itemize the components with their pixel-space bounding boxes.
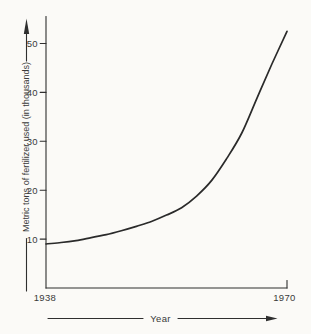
y-tick-label: 10 bbox=[27, 234, 38, 245]
y-tick-label: 40 bbox=[27, 87, 38, 98]
x-tick-label-1970: 1970 bbox=[273, 292, 296, 303]
x-axis-label: Year bbox=[150, 313, 171, 324]
x-axis-label-group: Year bbox=[48, 313, 278, 324]
y-tick-label: 50 bbox=[27, 38, 38, 49]
x-axis-right-arrow-icon bbox=[266, 316, 278, 322]
y-tick-label: 30 bbox=[27, 136, 38, 147]
fertilizer-usage-chart: Metric tons of fertilizer used (in thous… bbox=[0, 0, 311, 334]
x-tick-label-1938: 1938 bbox=[34, 292, 57, 303]
chart-canvas: Metric tons of fertilizer used (in thous… bbox=[0, 0, 311, 334]
y-tick-label: 20 bbox=[27, 185, 38, 196]
y-axis-label-group: Metric tons of fertilizer used (in thous… bbox=[21, 19, 31, 292]
plot-axes bbox=[46, 17, 287, 289]
fertilizer-curve bbox=[46, 31, 287, 244]
y-axis-up-arrow-icon bbox=[24, 19, 29, 35]
